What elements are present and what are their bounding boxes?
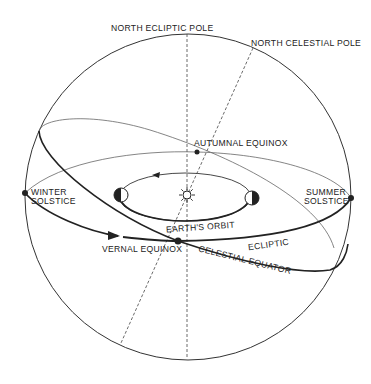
label-autumnal-equinox: AUTUMNAL EQUINOX	[194, 138, 288, 148]
label-celestial-equator: CELESTIAL EQUATOR	[198, 243, 293, 276]
label-north-ecliptic-pole: NORTH ECLIPTIC POLE	[111, 23, 213, 33]
autumnal-equinox-dot	[195, 150, 200, 155]
sun-icon	[179, 187, 195, 203]
earth-phase-icon-left	[114, 188, 128, 202]
label-summer-solstice-line2: SOLSTICE	[304, 196, 349, 206]
celestial-sphere-diagram: NORTH ECLIPTIC POLE NORTH CELESTIAL POLE…	[0, 0, 371, 384]
earth-phase-icon-right	[245, 191, 259, 205]
label-ecliptic: ECLIPTIC	[247, 237, 289, 253]
winter-solstice-dot	[22, 190, 28, 196]
label-winter-solstice-line2: SOLSTICE	[31, 196, 76, 206]
label-north-celestial-pole: NORTH CELESTIAL POLE	[251, 38, 361, 48]
ecliptic-arrow	[108, 231, 120, 240]
label-earths-orbit: EARTH'S ORBIT	[166, 220, 236, 235]
orbit-arrow-top	[152, 172, 160, 178]
label-vernal-equinox: VERNAL EQUINOX	[102, 244, 182, 254]
